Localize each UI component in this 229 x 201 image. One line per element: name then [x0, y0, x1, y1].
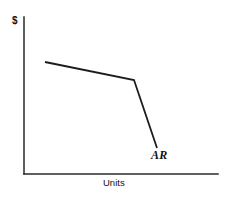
chart-figure: $ Units AR: [0, 0, 229, 201]
chart-plot-area: [0, 0, 229, 201]
average-revenue-curve: [45, 62, 157, 148]
x-axis-label: Units: [103, 178, 125, 188]
y-axis-label: $: [12, 16, 18, 26]
curve-label-ar: AR: [151, 149, 168, 161]
